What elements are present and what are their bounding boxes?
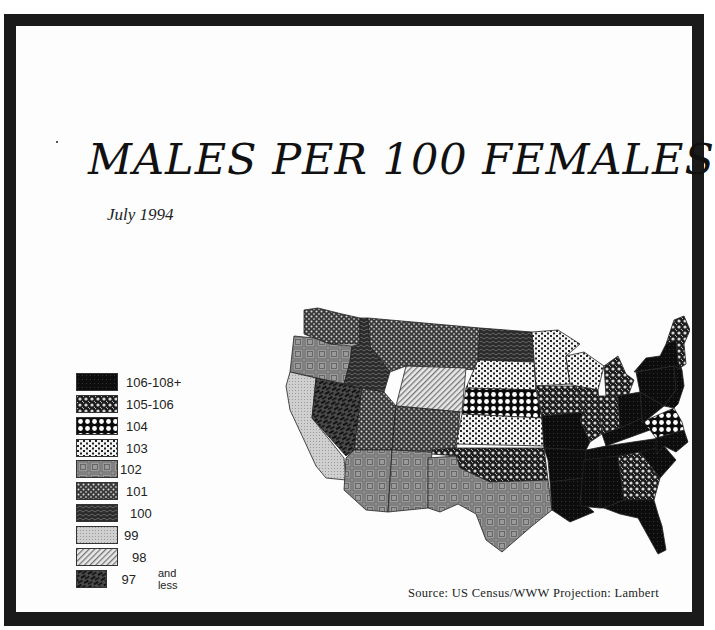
- legend-swatch: [76, 395, 118, 413]
- map-title: MALES PER 100 FEMALES: [88, 134, 715, 184]
- legend-swatch: [76, 504, 118, 522]
- legend-swatch: [76, 526, 118, 544]
- legend-item: 101: [76, 481, 148, 501]
- state-colorado: [392, 406, 460, 452]
- legend-swatch: [76, 373, 118, 391]
- state-new-mexico: [388, 450, 432, 512]
- legend-swatch: [76, 570, 107, 588]
- legend-label: 104: [126, 419, 148, 434]
- map-subtitle: July 1994: [107, 205, 174, 225]
- legend-label: 100: [130, 506, 152, 521]
- legend-item: 102: [76, 459, 142, 479]
- legend-swatch: [76, 460, 118, 478]
- us-map: [280, 300, 690, 560]
- legend-label: 102: [120, 462, 142, 477]
- speck: [56, 141, 58, 143]
- legend-item: 105-106: [76, 394, 174, 414]
- state-north-dakota: [478, 328, 534, 362]
- legend-swatch: [76, 548, 118, 566]
- state-montana: [368, 318, 480, 372]
- legend-label: 98: [132, 550, 146, 565]
- state-florida: [604, 500, 666, 554]
- legend-label: 106-108+: [126, 375, 181, 390]
- state-arkansas: [544, 448, 586, 482]
- legend-swatch: [76, 417, 118, 435]
- legend-item: 98: [76, 547, 146, 567]
- state-wyoming: [396, 366, 466, 412]
- state-south-dakota: [466, 360, 536, 390]
- legend-label: 99: [124, 528, 138, 543]
- state-arizona: [344, 450, 392, 512]
- state-wisconsin: [566, 352, 604, 390]
- legend-item: 104: [76, 416, 148, 436]
- legend-swatch: [76, 439, 118, 457]
- legend-item: 106-108+: [76, 372, 181, 392]
- legend-item: 100: [76, 503, 152, 523]
- state-michigan: [604, 356, 634, 396]
- legend-item: 99: [76, 525, 138, 545]
- state-kansas: [456, 414, 544, 446]
- legend-label: 101: [126, 484, 148, 499]
- source-credit: Source: US Census/WWW Projection: Lamber…: [408, 586, 659, 601]
- legend-label: 97: [121, 572, 135, 587]
- state-indiana: [598, 396, 620, 434]
- legend-label: 103: [126, 441, 148, 456]
- state-iowa: [536, 386, 584, 416]
- legend-note: and less: [158, 567, 188, 591]
- legend-label: 105-106: [126, 397, 174, 412]
- legend-item: 103: [76, 438, 148, 458]
- legend-item: 97 and less: [76, 569, 188, 589]
- legend-swatch: [76, 482, 118, 500]
- state-nebraska: [462, 388, 542, 418]
